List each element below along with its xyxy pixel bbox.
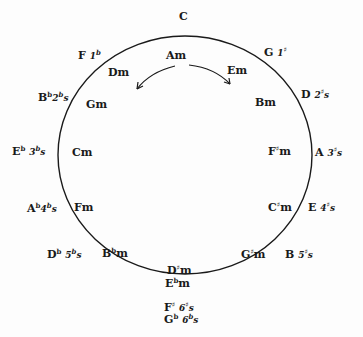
- key-a: A 3♯s: [315, 147, 342, 158]
- key-e-flat: Eb 3bs: [12, 146, 45, 157]
- minor-cm: Cm: [72, 147, 92, 158]
- key-g-flat: Gb 6bs: [164, 314, 198, 325]
- minor-d-sharp-m: D♯m: [167, 265, 192, 276]
- minor-g-sharp-m: G♯m: [241, 249, 265, 260]
- key-a-flat: Ab4bs: [27, 203, 57, 214]
- key-e: E 4♯s: [308, 202, 335, 213]
- minor-em: Em: [227, 65, 247, 76]
- key-d-flat: Db 5bs: [47, 249, 82, 260]
- key-d: D 2♯s: [301, 89, 329, 100]
- minor-bm: Bm: [255, 97, 276, 108]
- minor-b-flat-m: Bbm: [102, 248, 128, 259]
- minor-e-flat-m: Ebm: [165, 278, 190, 289]
- key-b: B 5♯s: [285, 249, 313, 260]
- minor-gm: Gm: [86, 99, 107, 110]
- minor-dm: Dm: [108, 67, 129, 78]
- arrow-right-icon: [189, 65, 230, 84]
- minor-f-sharp-m: F♯m: [268, 146, 291, 157]
- key-f: F 1b: [78, 50, 101, 61]
- key-g: G 1♯: [264, 47, 287, 58]
- minor-am: Am: [166, 50, 186, 61]
- minor-fm: Fm: [74, 202, 93, 213]
- minor-c-sharp-m: C♯m: [268, 202, 292, 213]
- key-b-flat: Bb2bs: [38, 92, 68, 103]
- key-c: C: [179, 11, 188, 22]
